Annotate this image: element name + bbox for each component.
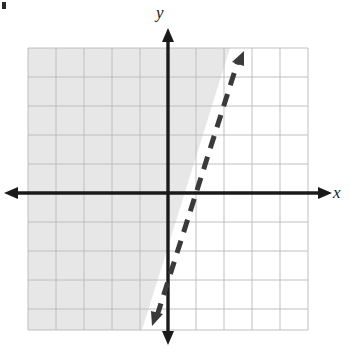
x-axis-right-arrowhead [318, 187, 332, 199]
coordinate-plane [0, 0, 350, 346]
y-axis-down-arrowhead [162, 331, 174, 345]
boundary-line-up-arrowhead [232, 51, 244, 66]
x-axis-left-arrowhead [4, 187, 18, 199]
y-axis-label: y [156, 4, 164, 21]
graph-figure: y x [0, 0, 350, 346]
boundary-line-down-arrowhead [151, 311, 163, 326]
x-axis-label: x [333, 184, 341, 201]
y-axis-up-arrowhead [162, 28, 174, 42]
